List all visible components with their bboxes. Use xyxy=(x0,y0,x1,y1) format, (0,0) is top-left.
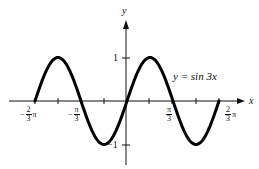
x-axis-label: x xyxy=(249,96,253,106)
x-tick-label-neg-third-pi: − π3 xyxy=(68,106,81,123)
y-axis-label: y xyxy=(122,6,126,16)
y-axis-arrow-icon xyxy=(123,20,129,29)
y-tick-label-neg1: −1 xyxy=(107,140,118,150)
x-tick-label-third-pi: π3 xyxy=(165,106,173,123)
x-tick-label-neg-two-thirds-pi: − 23 π xyxy=(20,106,37,123)
y-tick-label-1: 1 xyxy=(113,53,118,63)
x-axis-arrow-icon xyxy=(237,98,245,104)
chart-plot xyxy=(0,0,259,169)
x-tick-label-two-thirds-pi: 23 π xyxy=(224,106,236,123)
equation-label: y = sin 3x xyxy=(173,71,217,82)
